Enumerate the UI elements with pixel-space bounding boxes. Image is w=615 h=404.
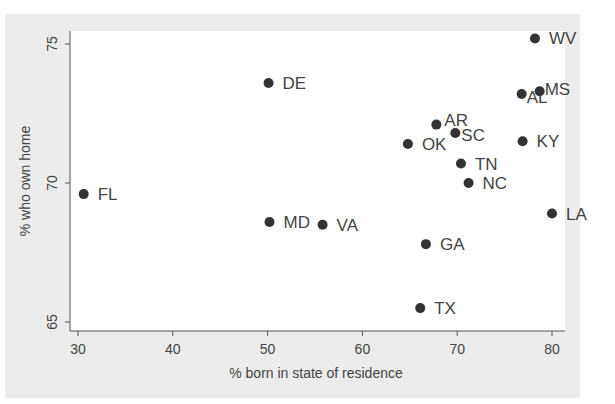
point-label-sc: SC [461,126,485,145]
x-tick-label: 40 [165,341,181,357]
data-point-la [547,209,557,219]
data-point-va [318,220,328,230]
point-label-va: VA [337,216,359,235]
data-point-ar [431,120,441,130]
point-label-ky: KY [537,132,560,151]
point-label-ok: OK [422,135,447,154]
point-label-tx: TX [434,299,456,318]
data-point-wv [530,33,540,43]
point-label-la: LA [566,205,587,224]
data-point-ky [518,136,528,146]
data-point-fl [79,189,89,199]
x-tick-label: 80 [544,341,560,357]
point-label-md: MD [283,213,309,232]
data-point-md [264,217,274,227]
x-tick-label: 70 [449,341,465,357]
point-label-wv: WV [549,29,577,48]
point-label-ms: MS [545,80,571,99]
x-tick-label: 30 [70,341,86,357]
x-tick-label: 50 [260,341,276,357]
x-tick-label: 60 [355,341,371,357]
y-axis-label: % who own home [17,126,33,237]
data-point-nc [464,178,474,188]
point-label-fl: FL [98,185,118,204]
point-label-de: DE [283,74,307,93]
y-tick-label: 75 [44,36,60,52]
data-point-al [517,89,527,99]
data-point-ok [403,139,413,149]
y-tick-label: 65 [44,314,60,330]
data-point-tn [456,159,466,169]
data-point-de [264,78,274,88]
scatter-chart: 304050607080 657075 FLDEMDVAOKARSCTNNCGA… [0,0,615,404]
data-point-tx [415,303,425,313]
data-point-sc [450,128,460,138]
data-point-ga [421,239,431,249]
point-label-ga: GA [440,235,465,254]
point-label-tn: TN [475,155,498,174]
data-point-ms [535,86,545,96]
y-tick-label: 70 [44,175,60,191]
point-label-nc: NC [483,174,508,193]
x-axis-label: % born in state of residence [229,365,403,381]
